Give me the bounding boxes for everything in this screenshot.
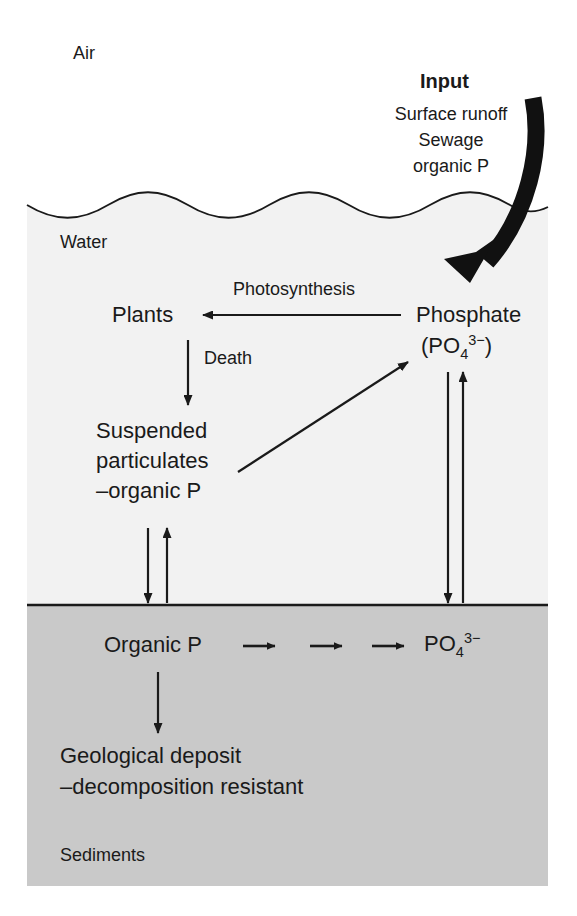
zone-label-water: Water <box>60 232 107 253</box>
node-suspended-line1: Suspended <box>96 418 207 444</box>
node-plants: Plants <box>112 302 173 328</box>
node-geological-line1: Geological deposit <box>60 743 241 769</box>
phosphorus-cycle-figure: Air Water Sediments Input Surface runoff… <box>0 0 577 916</box>
flow-label-photosynthesis: Photosynthesis <box>233 279 355 300</box>
input-heading: Input <box>420 70 469 94</box>
sediment-phosphate-subscript: 4 <box>456 644 464 660</box>
sediment-phosphate-prefix: PO <box>424 631 456 656</box>
zone-label-air: Air <box>73 43 95 64</box>
node-phosphate-name: Phosphate <box>416 302 521 328</box>
phosphate-formula-prefix: (PO <box>421 333 460 358</box>
node-phosphate-formula: (PO43−) <box>421 332 492 363</box>
node-suspended-line3: –organic P <box>96 478 201 504</box>
input-source-sewage: Sewage <box>381 130 521 151</box>
node-sediment-phosphate: PO43− <box>424 630 480 661</box>
phosphate-formula-superscript: 3− <box>468 332 485 348</box>
zone-label-sediments: Sediments <box>60 845 145 866</box>
node-suspended-line2: particulates <box>96 448 209 474</box>
node-sediment-organic-p: Organic P <box>104 632 202 658</box>
phosphate-formula-subscript: 4 <box>460 346 468 362</box>
node-geological-line2: –decomposition resistant <box>60 774 303 800</box>
input-source-surface-runoff: Surface runoff <box>381 104 521 125</box>
input-source-organic-p: organic P <box>381 156 521 177</box>
flow-label-death: Death <box>204 348 252 369</box>
phosphate-formula-suffix: ) <box>485 333 492 358</box>
sediment-phosphate-superscript: 3− <box>464 630 481 646</box>
